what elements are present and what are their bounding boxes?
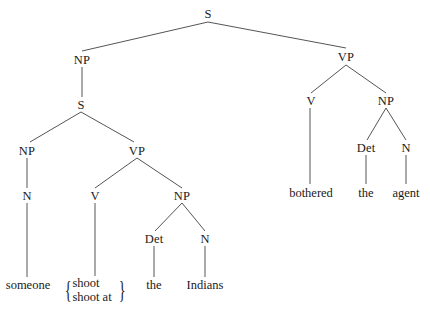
tree-edge <box>30 112 81 142</box>
leaf-someone: someone <box>6 279 50 292</box>
tree-edge <box>137 158 182 188</box>
leaf-indians: Indians <box>187 279 224 292</box>
node-n-subject: N <box>22 190 31 203</box>
node-np-top: NP <box>74 54 90 67</box>
tree-edge <box>386 108 406 140</box>
node-n-main: N <box>401 142 410 155</box>
node-np-main: NP <box>378 95 394 108</box>
tree-edge <box>95 158 137 188</box>
verb-alternatives: { shoot shoot at } <box>62 277 128 305</box>
leaf-the-2: the <box>358 187 373 200</box>
alternative-shoot: shoot <box>72 277 111 291</box>
tree-edge <box>208 22 346 48</box>
tree-edge <box>367 108 386 140</box>
node-np-subject: NP <box>19 145 35 158</box>
tree-edge <box>82 22 208 51</box>
leaf-agent: agent <box>392 187 419 200</box>
node-root-s: S <box>204 8 211 21</box>
alternative-shoot-at: shoot at <box>72 291 111 305</box>
node-vp-top: VP <box>338 51 354 64</box>
tree-edge <box>155 203 182 231</box>
node-vp-embedded: VP <box>129 145 145 158</box>
alternatives-list: shoot shoot at <box>72 277 111 305</box>
node-det-main: Det <box>357 142 376 155</box>
leaf-the-1: the <box>146 279 161 292</box>
node-n-object: N <box>200 233 209 246</box>
tree-edge <box>311 65 346 93</box>
tree-edges <box>0 0 430 317</box>
node-v-embedded: V <box>90 190 99 203</box>
node-np-object: NP <box>174 190 190 203</box>
right-brace-icon: } <box>118 277 125 303</box>
node-s-embedded: S <box>77 99 84 112</box>
node-det-object: Det <box>145 233 164 246</box>
tree-edge <box>182 203 205 231</box>
tree-edge <box>346 65 386 93</box>
node-v-main: V <box>306 95 315 108</box>
tree-edge <box>81 112 134 142</box>
left-brace-icon: { <box>65 277 72 303</box>
leaf-bothered: bothered <box>289 187 333 200</box>
